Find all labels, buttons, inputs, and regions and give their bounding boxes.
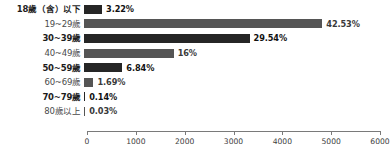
bar: [84, 5, 102, 14]
x-axis-tick: [136, 131, 137, 135]
x-axis-tick: [234, 131, 235, 135]
bar: [84, 19, 322, 28]
bar-row: 80歲以上0.03%: [0, 104, 386, 119]
bar-track: 6.84%: [84, 60, 386, 75]
x-axis-tick-label: 3000: [224, 137, 243, 146]
bar-track: 42.53%: [84, 17, 386, 32]
bar-rows: 18歲（含）以下3.22%19~29歲42.53%30~39歲29.54%40~…: [0, 2, 386, 119]
x-axis-tick-label: 6000: [370, 137, 389, 146]
x-axis-tick: [380, 131, 381, 135]
bar-row: 50~59歲6.84%: [0, 60, 386, 75]
bar-value-label: 1.69%: [97, 77, 125, 87]
category-label: 80歲以上: [0, 106, 84, 116]
x-axis-tick-label: 4000: [273, 137, 292, 146]
bar-row: 70~79歲0.14%: [0, 90, 386, 105]
bar: [84, 92, 85, 101]
bar-row: 19~29歲42.53%: [0, 17, 386, 32]
x-axis-tick: [185, 131, 186, 135]
bar: [84, 78, 93, 87]
x-axis-tick: [331, 131, 332, 135]
bar-value-label: 16%: [178, 48, 197, 58]
category-label: 60~69歲: [0, 77, 84, 87]
bar-row: 60~69歲1.69%: [0, 75, 386, 90]
bar: [84, 34, 250, 43]
bar: [84, 49, 174, 58]
x-axis-tick-label: 5000: [321, 137, 340, 146]
bar: [84, 63, 122, 72]
bar-value-label: 3.22%: [106, 4, 134, 14]
category-label: 18歲（含）以下: [0, 4, 84, 14]
bar-row: 18歲（含）以下3.22%: [0, 2, 386, 17]
category-label: 50~59歲: [0, 63, 84, 73]
bar-value-label: 42.53%: [326, 19, 360, 29]
x-axis-tick: [282, 131, 283, 135]
bar-row: 30~39歲29.54%: [0, 31, 386, 46]
x-axis-line: [87, 131, 380, 132]
x-axis-tick: [87, 131, 88, 135]
bar-track: 0.03%: [84, 104, 386, 119]
bar-value-label: 29.54%: [254, 33, 288, 43]
bar-track: 1.69%: [84, 75, 386, 90]
x-axis-tick-label: 1000: [126, 137, 145, 146]
x-axis-tick-label: 2000: [175, 137, 194, 146]
category-label: 30~39歲: [0, 33, 84, 43]
x-axis-tick-label: 0: [85, 137, 90, 146]
bar-track: 29.54%: [84, 31, 386, 46]
category-label: 40~49歲: [0, 48, 84, 58]
bar-track: 16%: [84, 46, 386, 61]
bar-value-label: 0.14%: [89, 92, 117, 102]
bar-value-label: 6.84%: [126, 63, 154, 73]
bar-value-label: 0.03%: [89, 106, 117, 116]
category-label: 70~79歲: [0, 92, 84, 102]
bar: [84, 107, 85, 116]
bar-track: 3.22%: [84, 2, 386, 17]
bar-row: 40~49歲16%: [0, 46, 386, 61]
bar-track: 0.14%: [84, 90, 386, 105]
category-label: 19~29歲: [0, 19, 84, 29]
